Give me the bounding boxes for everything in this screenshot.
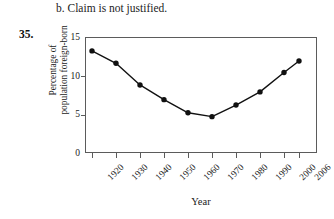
- x-tick-mark-2000: [284, 153, 285, 158]
- data-point-1930: [113, 61, 118, 66]
- y-tick-label-15: 15: [62, 33, 80, 43]
- x-tick-label-1920: 1920: [105, 162, 125, 182]
- x-tick-label-1960: 1960: [201, 162, 221, 182]
- data-point-2006: [296, 58, 301, 63]
- x-tick-label-1990: 1990: [273, 162, 293, 182]
- x-tick-label-1980: 1980: [249, 162, 269, 182]
- data-point-1980: [233, 102, 238, 107]
- y-tick-label-5: 5: [62, 110, 80, 120]
- x-tick-mark-1970: [212, 153, 213, 158]
- x-tick-mark-1940: [140, 153, 141, 158]
- x-tick-mark-1980: [236, 153, 237, 158]
- data-point-2000: [281, 70, 286, 75]
- x-tick-mark-1990: [260, 153, 261, 158]
- x-tick-label-1950: 1950: [177, 162, 197, 182]
- x-tick-label-2006: 2006: [312, 162, 332, 182]
- y-tick-label-0: 0: [62, 149, 80, 159]
- chart-plot-area: [85, 37, 317, 153]
- x-tick-mark-2006: [299, 153, 300, 158]
- data-point-1990: [257, 89, 262, 94]
- series-line-foreign-born: [92, 51, 299, 117]
- data-point-1950: [161, 97, 166, 102]
- data-point-1970: [209, 114, 214, 119]
- y-axis-label-line-1: Percentage of: [48, 45, 59, 96]
- line-chart-figure: Percentage of population foreign-born 15…: [0, 0, 334, 219]
- x-tick-label-1930: 1930: [129, 162, 149, 182]
- x-tick-mark-1950: [164, 153, 165, 158]
- y-tick-label-10: 10: [62, 72, 80, 82]
- x-axis-label: Year: [85, 196, 317, 207]
- data-point-1920: [89, 48, 94, 53]
- figure-page: b. Claim is not justified. 35. Percentag…: [0, 0, 334, 219]
- x-tick-label-1940: 1940: [153, 162, 173, 182]
- y-axis-tick-labels: 15 10 5 0: [62, 33, 80, 157]
- x-tick-label-1970: 1970: [225, 162, 245, 182]
- x-tick-mark-1960: [188, 153, 189, 158]
- x-tick-mark-1930: [116, 153, 117, 158]
- x-tick-mark-1920: [92, 153, 93, 158]
- data-point-1960: [185, 110, 190, 115]
- data-point-1940: [137, 82, 142, 87]
